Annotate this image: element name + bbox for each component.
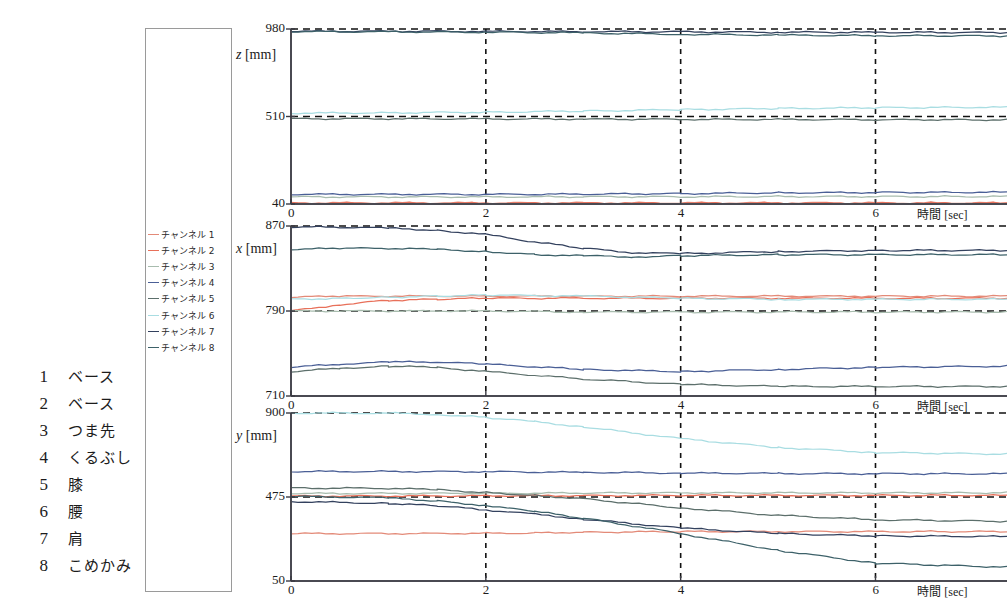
x-tick-label: 6 [872, 582, 879, 598]
body-part-number: 5 [22, 471, 48, 498]
y-tick-label: 475 [225, 488, 285, 504]
series-line [291, 226, 1007, 254]
series-line [291, 202, 1007, 204]
y-tick-label: 900 [225, 404, 285, 420]
x-axis-unit: [sec] [944, 208, 967, 222]
body-part-row: 4くるぶし [22, 444, 142, 471]
legend-line-icon [148, 315, 159, 316]
y-axis-symbol: z [236, 47, 241, 62]
series-line [291, 487, 1007, 522]
body-part-number: 8 [22, 552, 48, 579]
x-axis-title-text: 時間 [917, 208, 941, 222]
body-part-label: くるぶし [68, 445, 132, 472]
y-tick-label: 40 [225, 195, 285, 211]
legend-item[interactable]: チャンネル 3 [146, 258, 232, 274]
legend-label: チャンネル 5 [161, 292, 215, 305]
y-tick-label: 870 [225, 217, 285, 233]
series-line [291, 30, 1007, 33]
y-axis-title: z [mm] [236, 47, 276, 63]
y-axis-unit: [mm] [245, 47, 276, 62]
legend-label: チャンネル 2 [161, 244, 215, 257]
legend-line-icon [148, 282, 159, 283]
series-line [291, 366, 1007, 387]
series-line [291, 118, 1007, 121]
legend-line-icon [148, 250, 159, 251]
y-axis-symbol: x [236, 241, 242, 256]
y-axis-title: x [mm] [236, 241, 277, 257]
legend-label: チャンネル 8 [161, 341, 215, 354]
x-tick-label: 6 [872, 397, 879, 413]
legend-item[interactable]: チャンネル 6 [146, 307, 232, 323]
x-axis-title: 時間 [sec] [917, 397, 968, 415]
series-line [291, 496, 1007, 568]
body-part-row: 1ベース [22, 363, 142, 390]
legend-line-icon [148, 347, 159, 348]
body-part-list: 1ベース2ベース3つま先4くるぶし5膝6腰7肩8こめかみ [22, 363, 142, 579]
legend-item[interactable]: チャンネル 5 [146, 291, 232, 307]
y-axis-unit: [mm] [246, 428, 277, 443]
legend-label: チャンネル 1 [161, 228, 215, 241]
legend-items: チャンネル 1チャンネル 2チャンネル 3チャンネル 4チャンネル 5チャンネル… [146, 226, 232, 356]
legend-item[interactable]: チャンネル 4 [146, 275, 232, 291]
body-part-number: 1 [22, 363, 48, 390]
series-line [291, 202, 1007, 204]
body-part-number: 6 [22, 498, 48, 525]
series-line [291, 107, 1007, 114]
x-tick-label: 2 [483, 582, 490, 598]
series-line [291, 495, 1007, 497]
x-tick-label: 2 [483, 397, 490, 413]
series-line [291, 531, 1007, 535]
series-line [291, 248, 1007, 258]
series-line [291, 412, 1007, 454]
x-tick-label: 0 [288, 582, 295, 598]
y-axis-symbol: y [236, 428, 242, 443]
y-tick-label: 980 [225, 20, 285, 36]
x-axis-unit: [sec] [944, 585, 967, 599]
series-line [291, 361, 1007, 372]
x-axis-title: 時間 [sec] [917, 205, 968, 223]
x-tick-label: 4 [678, 205, 685, 221]
x-tick-label: 0 [288, 205, 295, 221]
series-line [291, 196, 1007, 198]
series-line [291, 295, 1007, 301]
legend-item[interactable]: チャンネル 8 [146, 339, 232, 355]
series-line [291, 310, 1007, 313]
legend-item[interactable]: チャンネル 1 [146, 226, 232, 242]
series-line [291, 31, 1007, 37]
body-part-label: 膝 [68, 472, 84, 499]
y-tick-label: 710 [225, 387, 285, 403]
y-tick-label: 50 [225, 572, 285, 588]
x-tick-label: 2 [483, 205, 490, 221]
y-tick-label: 510 [225, 108, 285, 124]
x-axis-title-text: 時間 [917, 585, 941, 599]
legend-label: チャンネル 6 [161, 309, 215, 322]
body-part-row: 8こめかみ [22, 552, 142, 579]
figure-root: 1ベース2ベース3つま先4くるぶし5膝6腰7肩8こめかみ チャンネル 1チャンネ… [0, 0, 1007, 609]
body-part-number: 2 [22, 390, 48, 417]
legend-line-icon [148, 331, 159, 332]
x-axis-title: 時間 [sec] [917, 582, 968, 600]
series-line [291, 297, 1007, 310]
body-part-number: 7 [22, 525, 48, 552]
legend-item[interactable]: チャンネル 7 [146, 323, 232, 339]
body-part-label: 腰 [68, 499, 84, 526]
body-part-row: 5膝 [22, 471, 142, 498]
y-tick-label: 790 [225, 302, 285, 318]
body-part-label: ベース [68, 364, 115, 391]
body-part-number: 4 [22, 444, 48, 471]
body-part-row: 2ベース [22, 390, 142, 417]
series-line [291, 295, 1007, 297]
x-tick-label: 0 [288, 397, 295, 413]
y-axis-title: y [mm] [236, 428, 277, 444]
legend-label: チャンネル 3 [161, 260, 215, 273]
body-part-row: 3つま先 [22, 417, 142, 444]
legend-item[interactable]: チャンネル 2 [146, 242, 232, 258]
x-axis-unit: [sec] [944, 400, 967, 414]
legend-label: チャンネル 4 [161, 276, 215, 289]
legend-line-icon [148, 266, 159, 267]
body-part-row: 7肩 [22, 525, 142, 552]
legend-label: チャンネル 7 [161, 325, 215, 338]
body-part-label: 肩 [68, 526, 84, 553]
x-tick-label: 4 [678, 397, 685, 413]
body-part-label: こめかみ [68, 553, 132, 580]
